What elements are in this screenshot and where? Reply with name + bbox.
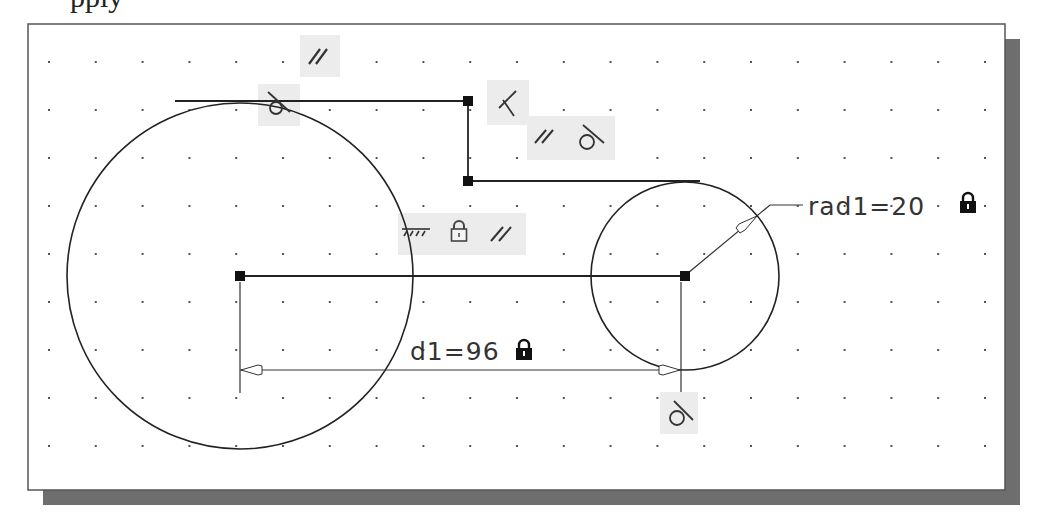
grid-dot — [95, 253, 97, 255]
grid-dot — [188, 157, 190, 159]
grid-dot — [235, 445, 237, 447]
grid-dot — [282, 445, 284, 447]
grid-dot — [890, 397, 892, 399]
grid-dot — [469, 445, 471, 447]
grid-dot — [235, 349, 237, 351]
grid-dot — [703, 349, 705, 351]
grid-dot — [563, 61, 565, 63]
grid-dot — [656, 253, 658, 255]
grid-dot — [797, 397, 799, 399]
grid-dot — [95, 397, 97, 399]
grid-dot — [142, 445, 144, 447]
grid-dot — [329, 397, 331, 399]
grid-dot — [95, 349, 97, 351]
grid-dot — [422, 397, 424, 399]
grid-dot — [376, 445, 378, 447]
constraint-badge-bg — [660, 392, 698, 434]
grid-dot — [282, 205, 284, 207]
grid-dot — [890, 349, 892, 351]
grid-dot — [797, 253, 799, 255]
sketch-canvas[interactable]: d1=96 rad1=20 — [0, 0, 1039, 522]
grid-dot — [48, 301, 50, 303]
rad1-label[interactable]: rad1=20 — [808, 192, 925, 221]
grid-dot — [142, 61, 144, 63]
grid-dot — [142, 349, 144, 351]
grid-dot — [329, 109, 331, 111]
grid-dot — [656, 301, 658, 303]
grid-dot — [703, 253, 705, 255]
grid-dot — [610, 301, 612, 303]
grid-dot — [188, 301, 190, 303]
grid-dot — [469, 397, 471, 399]
grid-dot — [937, 205, 939, 207]
grid-dot — [376, 61, 378, 63]
grid-dot — [937, 397, 939, 399]
grid-dot — [656, 157, 658, 159]
grid-dot — [422, 445, 424, 447]
grid-dot — [48, 157, 50, 159]
grid-dot — [188, 445, 190, 447]
constraint-badge-bg — [300, 35, 340, 77]
grid-dot — [422, 205, 424, 207]
grid-dot — [188, 349, 190, 351]
grid-dot — [797, 157, 799, 159]
grid-dot — [844, 157, 846, 159]
vertex-marker[interactable] — [680, 271, 690, 281]
grid-dot — [984, 205, 986, 207]
grid-dot — [984, 349, 986, 351]
grid-dot — [235, 397, 237, 399]
grid-dot — [750, 157, 752, 159]
grid-dot — [750, 397, 752, 399]
grid-dot — [656, 61, 658, 63]
grid-dot — [95, 61, 97, 63]
grid-dot — [469, 109, 471, 111]
grid-dot — [376, 253, 378, 255]
grid-dot — [890, 61, 892, 63]
grid-dot — [750, 61, 752, 63]
grid-dot — [656, 397, 658, 399]
grid-dot — [95, 445, 97, 447]
grid-dot — [142, 253, 144, 255]
grid-dot — [48, 349, 50, 351]
grid-dot — [844, 445, 846, 447]
grid-dot — [469, 157, 471, 159]
grid-dot — [376, 397, 378, 399]
grid-dot — [563, 445, 565, 447]
grid-dot — [48, 253, 50, 255]
grid-dot — [142, 157, 144, 159]
grid-dot — [656, 109, 658, 111]
grid-dot — [750, 253, 752, 255]
grid-dot — [750, 205, 752, 207]
grid-dot — [235, 109, 237, 111]
grid-dot — [890, 445, 892, 447]
grid-dot — [376, 301, 378, 303]
grid-dot — [422, 157, 424, 159]
grid-dot — [890, 253, 892, 255]
grid-dot — [376, 109, 378, 111]
grid-dot — [656, 445, 658, 447]
grid-dot — [142, 397, 144, 399]
vertex-marker[interactable] — [463, 96, 473, 106]
grid-dot — [516, 61, 518, 63]
grid-dot — [750, 445, 752, 447]
grid-dot — [750, 349, 752, 351]
grid-dot — [610, 61, 612, 63]
grid-dot — [844, 253, 846, 255]
grid-dot — [703, 157, 705, 159]
vertex-marker[interactable] — [463, 176, 473, 186]
grid-dot — [235, 205, 237, 207]
grid-dot — [48, 61, 50, 63]
grid-dot — [703, 109, 705, 111]
grid-dot — [376, 157, 378, 159]
grid-dot — [797, 445, 799, 447]
grid-dot — [703, 445, 705, 447]
d1-label[interactable]: d1=96 — [410, 337, 500, 366]
vertex-marker[interactable] — [235, 271, 245, 281]
grid-dot — [235, 61, 237, 63]
grid-dot — [188, 61, 190, 63]
grid-dot — [890, 157, 892, 159]
grid-dot — [844, 301, 846, 303]
grid-dot — [984, 61, 986, 63]
grid-dot — [937, 253, 939, 255]
constraint-badge-bg — [487, 80, 529, 125]
